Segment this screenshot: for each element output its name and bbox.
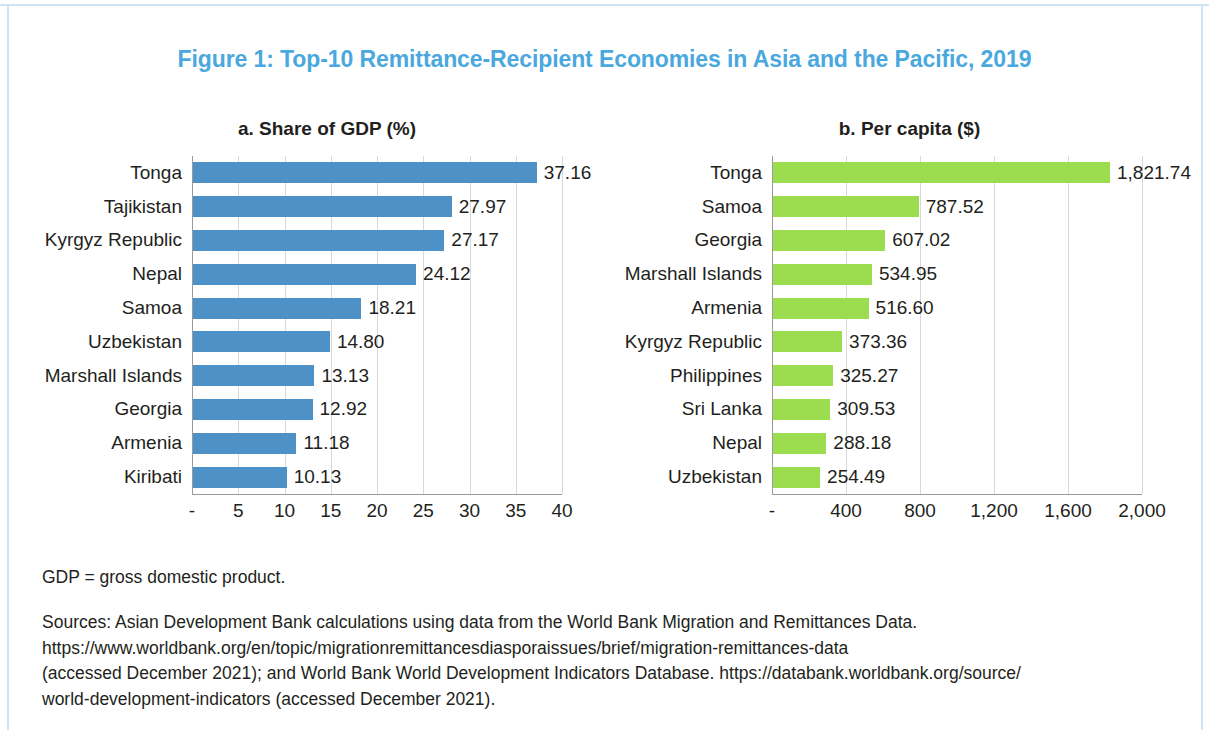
category-label: Marshall Islands [45, 365, 182, 387]
x-tick-label: 400 [830, 500, 862, 522]
bar-value-label: 11.18 [303, 432, 349, 454]
category-label: Armenia [111, 432, 182, 454]
bar-row: Kiribati10.13 [22, 460, 612, 494]
bar [193, 264, 416, 285]
x-tick-label: 25 [413, 500, 434, 522]
bar [773, 467, 820, 488]
bar-value-label: 373.36 [849, 331, 907, 353]
category-label: Kiribati [124, 466, 182, 488]
x-tick-label: 35 [505, 500, 526, 522]
chart-b-plot-area: Tonga1,821.74Samoa787.52Georgia607.02Mar… [612, 156, 1197, 506]
bar-value-label: 607.02 [892, 229, 950, 251]
bar [193, 331, 330, 352]
bar [193, 162, 537, 183]
bar-row: Nepal288.18 [612, 426, 1197, 460]
category-label: Tonga [710, 162, 762, 184]
category-label: Georgia [114, 398, 182, 420]
bar-value-label: 787.52 [926, 196, 984, 218]
note-sources: Sources: Asian Development Bank calculat… [42, 610, 1182, 713]
sources-line-4: world-development-indicators (accessed D… [42, 687, 1182, 713]
bar-row: Uzbekistan254.49 [612, 460, 1197, 494]
bar-row: Marshall Islands534.95 [612, 257, 1197, 291]
bar-row: Sri Lanka309.53 [612, 393, 1197, 427]
x-tick-label: - [769, 500, 775, 522]
bar-value-label: 37.16 [544, 162, 592, 184]
page-border-top [0, 4, 1209, 6]
figure-page: Figure 1: Top-10 Remittance-Recipient Ec… [0, 0, 1209, 734]
x-tick-label: 30 [459, 500, 480, 522]
bar-value-label: 24.12 [423, 263, 471, 285]
category-label: Samoa [702, 196, 762, 218]
chart-b-bars: Tonga1,821.74Samoa787.52Georgia607.02Mar… [612, 156, 1197, 494]
chart-a-title: a. Share of GDP (%) [22, 118, 612, 140]
bar-row: Kyrgyz Republic373.36 [612, 325, 1197, 359]
bar-row: Georgia12.92 [22, 393, 612, 427]
x-tick-label: 10 [274, 500, 295, 522]
category-label: Uzbekistan [88, 331, 182, 353]
bar-row: Armenia11.18 [22, 426, 612, 460]
bar-value-label: 309.53 [837, 398, 895, 420]
chart-b-x-axis-line [772, 494, 1142, 495]
bar-value-label: 288.18 [833, 432, 891, 454]
category-label: Nepal [712, 432, 762, 454]
x-tick-label: 15 [320, 500, 341, 522]
category-label: Tajikistan [104, 196, 182, 218]
category-label: Kyrgyz Republic [45, 229, 182, 251]
bar-row: Tajikistan27.97 [22, 190, 612, 224]
bar-row: Armenia516.60 [612, 291, 1197, 325]
chart-a-plot-area: Tonga37.16Tajikistan27.97Kyrgyz Republic… [22, 156, 612, 506]
x-tick-label: 1,200 [970, 500, 1018, 522]
bar-row: Kyrgyz Republic27.17 [22, 224, 612, 258]
chart-panel-share-of-gdp: a. Share of GDP (%) Tonga37.16Tajikistan… [22, 118, 612, 506]
bar-row: Uzbekistan14.80 [22, 325, 612, 359]
chart-a-x-tick-labels: -510152025303540 [192, 500, 562, 530]
x-tick-label: 40 [551, 500, 572, 522]
bar [193, 196, 452, 217]
bar [773, 433, 826, 454]
category-label: Samoa [122, 297, 182, 319]
bar [193, 230, 444, 251]
bar [773, 399, 830, 420]
bar [773, 298, 869, 319]
bar [773, 196, 919, 217]
category-label: Uzbekistan [668, 466, 762, 488]
figure-notes: GDP = gross domestic product. Sources: A… [42, 567, 1182, 713]
figure-title: Figure 1: Top-10 Remittance-Recipient Ec… [0, 46, 1209, 73]
bar-row: Georgia607.02 [612, 224, 1197, 258]
chart-a-x-axis-line [192, 494, 562, 495]
x-tick-label: 2,000 [1118, 500, 1166, 522]
bar-row: Samoa787.52 [612, 190, 1197, 224]
bar [773, 331, 842, 352]
bar [193, 467, 287, 488]
chart-b-title: b. Per capita ($) [612, 118, 1197, 140]
category-label: Tonga [130, 162, 182, 184]
chart-b-x-tick-labels: -4008001,2001,6002,000 [772, 500, 1142, 530]
category-label: Marshall Islands [625, 263, 762, 285]
bar-value-label: 13.13 [321, 365, 369, 387]
x-tick-label: 5 [233, 500, 244, 522]
bar-value-label: 534.95 [879, 263, 937, 285]
category-label: Sri Lanka [682, 398, 762, 420]
bar [773, 264, 872, 285]
bar-row: Philippines325.27 [612, 359, 1197, 393]
category-label: Georgia [694, 229, 762, 251]
chart-panel-per-capita: b. Per capita ($) Tonga1,821.74Samoa787.… [612, 118, 1197, 506]
bar [193, 433, 296, 454]
bar [193, 399, 313, 420]
bar-row: Tonga37.16 [22, 156, 612, 190]
sources-line-1: Sources: Asian Development Bank calculat… [42, 610, 1182, 636]
bar-row: Marshall Islands13.13 [22, 359, 612, 393]
bar [193, 298, 361, 319]
bar-row: Samoa18.21 [22, 291, 612, 325]
bar-row: Nepal24.12 [22, 257, 612, 291]
x-tick-label: 20 [366, 500, 387, 522]
category-label: Nepal [132, 263, 182, 285]
category-label: Kyrgyz Republic [625, 331, 762, 353]
bar-value-label: 10.13 [294, 466, 342, 488]
bar [773, 162, 1110, 183]
bar-value-label: 14.80 [337, 331, 385, 353]
x-tick-label: 800 [904, 500, 936, 522]
bar-row: Tonga1,821.74 [612, 156, 1197, 190]
sources-line-3: (accessed December 2021); and World Bank… [42, 661, 1182, 687]
bar-value-label: 12.92 [320, 398, 368, 420]
